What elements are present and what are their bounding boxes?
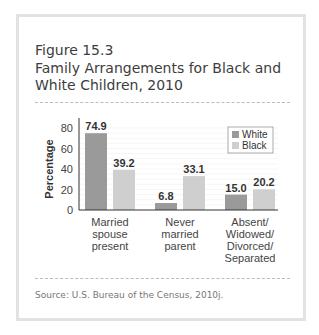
data-label: 6.8 bbox=[158, 190, 173, 202]
legend-swatch bbox=[232, 131, 239, 138]
source-note: Source: U.S. Bureau of the Census, 2010j… bbox=[35, 290, 223, 300]
bar-white bbox=[225, 195, 247, 210]
data-label: 39.2 bbox=[113, 157, 134, 169]
bar-black bbox=[113, 170, 135, 210]
y-tick-label: 20 bbox=[61, 184, 73, 196]
x-tick-label: spouse bbox=[92, 228, 127, 240]
y-axis-label: Percentage bbox=[43, 139, 55, 198]
y-tick-label: 0 bbox=[67, 204, 73, 216]
x-tick-label: Never bbox=[165, 216, 195, 228]
legend-swatch bbox=[232, 142, 239, 149]
bottom-divider bbox=[35, 278, 290, 279]
x-tick-label: Separated bbox=[225, 252, 276, 264]
data-label: 33.1 bbox=[183, 163, 204, 175]
bar-white bbox=[85, 133, 107, 210]
legend-label: Black bbox=[242, 140, 267, 151]
bar-black bbox=[183, 176, 205, 210]
bar-black bbox=[253, 189, 275, 210]
data-label: 15.0 bbox=[225, 182, 246, 194]
data-label: 74.9 bbox=[85, 120, 106, 132]
bar-white bbox=[155, 203, 177, 210]
y-tick-label: 40 bbox=[61, 163, 73, 175]
bar-chart: 020406080Percentage74.939.2Marriedspouse… bbox=[0, 0, 319, 335]
legend-label: White bbox=[242, 129, 268, 140]
data-label: 20.2 bbox=[253, 176, 274, 188]
x-tick-label: married bbox=[161, 228, 198, 240]
x-tick-label: present bbox=[92, 240, 129, 252]
x-tick-label: Widowed/ bbox=[226, 228, 275, 240]
y-tick-label: 80 bbox=[61, 122, 73, 134]
x-tick-label: Divorced/ bbox=[227, 240, 274, 252]
x-tick-label: Married bbox=[91, 216, 128, 228]
y-tick-label: 60 bbox=[61, 143, 73, 155]
x-tick-label: parent bbox=[164, 240, 195, 252]
x-tick-label: Absent/ bbox=[231, 216, 269, 228]
